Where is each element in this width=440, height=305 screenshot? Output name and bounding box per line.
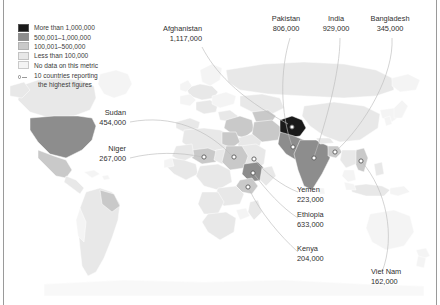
callout-kenya-name: Kenya (297, 244, 367, 254)
callout-afghanistan: Afghanistan 1,117,000 (118, 24, 202, 43)
callout-afghanistan-name: Afghanistan (118, 24, 202, 34)
marker-pakistan (291, 145, 295, 149)
callout-sudan: Sudan 454,000 (58, 108, 126, 127)
legend-label-0: More than 1,000,000 (34, 23, 95, 32)
marker-niger (202, 155, 206, 159)
callout-ethiopia-name: Ethiopia (297, 210, 367, 220)
callout-sudan-value: 454,000 (58, 118, 126, 128)
callout-kenya: Kenya 204,000 (297, 244, 367, 263)
callout-vietnam: Viet Nam 162,000 (371, 267, 440, 286)
legend-label-3: Less than 100,000 (34, 51, 88, 60)
callout-niger-value: 267,000 (58, 154, 126, 164)
world-map-figure: .ld { stroke:#ffffff; stroke-width:0.5; … (0, 0, 440, 305)
legend-label-4: No data on this metric (34, 61, 98, 70)
marker-dot-icon (18, 72, 29, 81)
marker-bangladesh (333, 150, 337, 154)
callout-ethiopia: Ethiopia 633,000 (297, 210, 367, 229)
callout-yemen-value: 223,000 (297, 195, 367, 205)
legend-item-4: No data on this metric (18, 61, 178, 70)
legend-swatch-more-than-1000000 (18, 24, 29, 32)
marker-sudan (232, 155, 236, 159)
callout-vietnam-value: 162,000 (371, 277, 440, 287)
legend-marker-note: 10 countries reporting the highest figur… (34, 72, 98, 89)
callout-niger-name: Niger (58, 144, 126, 154)
callout-vietnam-name: Viet Nam (371, 267, 440, 277)
legend-label-2: 100,001–500,000 (34, 42, 85, 51)
legend-swatch-less-than-100000 (18, 52, 29, 60)
marker-ethiopia (251, 171, 255, 175)
legend-swatch-no-data (18, 61, 29, 69)
callout-bangladesh: Bangladesh 345,000 (352, 14, 428, 33)
marker-afghanistan (290, 125, 294, 129)
marker-india (312, 156, 316, 160)
legend-item-2: 100,001–500,000 (18, 42, 178, 51)
frame-rule-right (436, 0, 437, 305)
callout-bangladesh-name: Bangladesh (352, 14, 428, 24)
callout-ethiopia-value: 633,000 (297, 220, 367, 230)
callout-bangladesh-value: 345,000 (352, 24, 428, 34)
legend-swatch-100001-500000 (18, 42, 29, 50)
callout-yemen: Yemen 223,000 (297, 185, 367, 204)
legend-swatch-500001-1000000 (18, 33, 29, 41)
callout-niger: Niger 267,000 (58, 144, 126, 163)
callout-yemen-name: Yemen (297, 185, 367, 195)
marker-vietnam (359, 159, 363, 163)
legend-item-marker-note: 10 countries reporting the highest figur… (18, 72, 178, 89)
legend-marker-note-line2: the highest figures (34, 81, 98, 89)
marker-yemen (252, 157, 256, 161)
legend-marker-note-line1: 10 countries reporting (34, 72, 98, 79)
legend-label-1: 500,001–1,000,000 (34, 33, 91, 42)
marker-kenya (246, 185, 250, 189)
callout-afghanistan-value: 1,117,000 (118, 34, 202, 44)
legend-item-3: Less than 100,000 (18, 51, 178, 60)
callout-sudan-name: Sudan (58, 108, 126, 118)
callout-kenya-value: 204,000 (297, 254, 367, 264)
